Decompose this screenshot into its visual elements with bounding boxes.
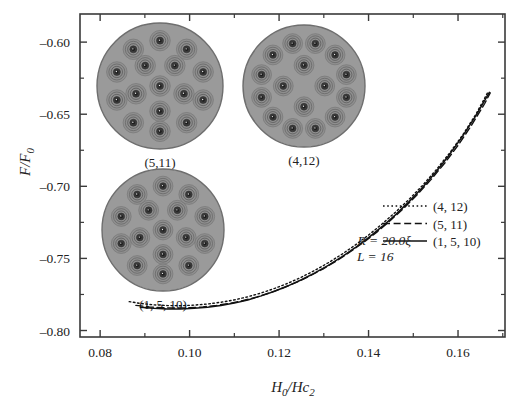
- vortex-core: [302, 64, 305, 67]
- vortex-core-highlight: [303, 64, 304, 65]
- vortex-core: [132, 48, 135, 51]
- superconducting-disk: [243, 25, 365, 147]
- vortex-core: [260, 73, 263, 76]
- y-tick-label: –0.70: [39, 179, 71, 194]
- vortex-core: [161, 272, 164, 275]
- vortex-core-highlight: [162, 185, 163, 186]
- vortex-core-highlight: [260, 96, 261, 97]
- vortex-core-highlight: [272, 54, 273, 55]
- vortex-core-highlight: [314, 127, 315, 128]
- vortex-core: [201, 70, 204, 73]
- vortex-core: [176, 209, 179, 212]
- vortex-core: [115, 98, 118, 101]
- legend-label[interactable]: (5, 11): [433, 217, 467, 232]
- x-tick-label: 0.12: [267, 345, 291, 360]
- vortex-core: [147, 209, 150, 212]
- vortex-core: [138, 236, 141, 239]
- vortex-core: [185, 48, 188, 51]
- vortex-core: [323, 84, 326, 87]
- vortex-core-highlight: [176, 209, 177, 210]
- vortex-core: [161, 184, 164, 187]
- vortex-core: [333, 53, 336, 56]
- inset-caption: (5,11): [145, 155, 176, 170]
- annotation-angular-momentum: L = 16: [356, 249, 394, 264]
- legend-label[interactable]: (4, 12): [433, 199, 468, 214]
- x-tick-label: 0.08: [88, 345, 112, 360]
- vortex-core: [120, 215, 123, 218]
- vortex-core: [314, 127, 317, 130]
- y-tick-label: –0.65: [39, 107, 71, 122]
- vortex-core-highlight: [185, 48, 186, 49]
- vortex-core-highlight: [116, 99, 117, 100]
- vortex-core-highlight: [204, 242, 205, 243]
- vortex-core-highlight: [148, 209, 149, 210]
- vortex-core: [132, 121, 135, 124]
- x-tick-label: 0.10: [178, 345, 202, 360]
- vortex-core: [345, 73, 348, 76]
- vortex-core-highlight: [202, 99, 203, 100]
- vortex-core: [291, 42, 294, 45]
- vortex-core: [158, 130, 161, 133]
- vortex-core-highlight: [136, 193, 137, 194]
- vortex-core-highlight: [144, 64, 145, 65]
- vortex-core: [333, 115, 336, 118]
- legend-label[interactable]: (1, 5, 10): [433, 234, 481, 249]
- y-tick-label: –0.60: [39, 35, 71, 50]
- vortex-core-highlight: [162, 253, 163, 254]
- vortex-core: [182, 92, 185, 95]
- figure-panel: 0.080.100.120.140.16–0.60–0.65–0.70–0.75…: [0, 0, 512, 403]
- vortex-core-highlight: [204, 215, 205, 216]
- vortex-core: [314, 42, 317, 45]
- vortex-core-highlight: [159, 110, 160, 111]
- vortex-core: [271, 115, 274, 118]
- vortex-core: [260, 96, 263, 99]
- vortex-core: [187, 193, 190, 196]
- vortex-core: [158, 110, 161, 113]
- vortex-core-highlight: [185, 236, 186, 237]
- vortex-core-highlight: [345, 73, 346, 74]
- vortex-core-highlight: [188, 193, 189, 194]
- vortex-core: [173, 64, 176, 67]
- vortex-core: [115, 70, 118, 73]
- vortex-core-highlight: [120, 242, 121, 243]
- vortex-core-highlight: [162, 273, 163, 274]
- vortex-core: [161, 228, 164, 231]
- vortex-core: [120, 242, 123, 245]
- vortex-core: [345, 96, 348, 99]
- vortex-core-highlight: [282, 85, 283, 86]
- vortex-core-highlight: [291, 42, 292, 43]
- vortex-core-highlight: [202, 71, 203, 72]
- vortex-core-highlight: [159, 85, 160, 86]
- vortex-core: [203, 215, 206, 218]
- vortex-core-highlight: [183, 93, 184, 94]
- y-tick-label: –0.80: [39, 324, 71, 339]
- vortex-core-highlight: [314, 42, 315, 43]
- vortex-core: [282, 84, 285, 87]
- vortex-core: [185, 236, 188, 239]
- annotation-radius: R = 20.0ξ: [356, 233, 411, 248]
- free-energy-vs-field-chart: 0.080.100.120.140.16–0.60–0.65–0.70–0.75…: [0, 0, 512, 403]
- vortex-core-highlight: [188, 264, 189, 265]
- vortex-core: [158, 84, 161, 87]
- vortex-core-highlight: [132, 48, 133, 49]
- vortex-core: [291, 127, 294, 130]
- vortex-core: [187, 264, 190, 267]
- vortex-core-highlight: [174, 64, 175, 65]
- vortex-core-highlight: [159, 130, 160, 131]
- vortex-core: [185, 121, 188, 124]
- vortex-core-highlight: [345, 96, 346, 97]
- vortex-core-highlight: [159, 39, 160, 40]
- x-tick-label: 0.14: [357, 345, 381, 360]
- vortex-core: [144, 64, 147, 67]
- vortex-core-highlight: [185, 122, 186, 123]
- vortex-core-highlight: [132, 122, 133, 123]
- vortex-core-highlight: [139, 236, 140, 237]
- vortex-core-highlight: [162, 229, 163, 230]
- vortex-core-highlight: [291, 127, 292, 128]
- vortex-core: [134, 92, 137, 95]
- vortex-core: [136, 193, 139, 196]
- y-tick-label: –0.75: [39, 251, 71, 266]
- vortex-core-highlight: [136, 264, 137, 265]
- x-tick-label: 0.16: [446, 345, 470, 360]
- inset-caption: (4,12): [288, 153, 319, 168]
